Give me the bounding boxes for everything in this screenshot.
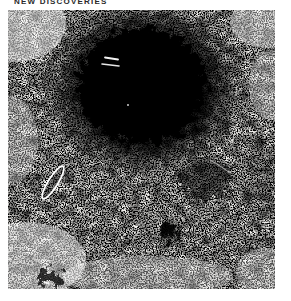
galaxy-lower-right-lobe — [178, 159, 232, 201]
page-header-label: NEW DISCOVERIES — [14, 0, 214, 6]
page: NEW DISCOVERIES — [0, 0, 291, 301]
white-speck — [127, 104, 129, 106]
dark-smudge-bottom-left — [37, 269, 63, 285]
astronomy-photo-plate — [8, 10, 275, 289]
photo-plate-svg — [8, 10, 275, 289]
page-header: NEW DISCOVERIES — [14, 0, 214, 7]
